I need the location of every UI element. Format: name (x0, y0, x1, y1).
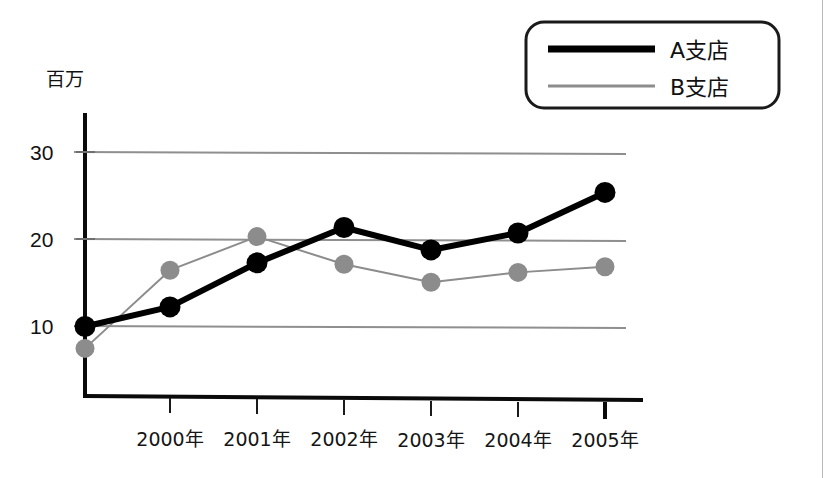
legend[interactable]: A支店 B支店 (526, 22, 779, 108)
data-point-marker (508, 223, 529, 244)
data-point-marker (335, 255, 354, 274)
data-point-marker (596, 257, 615, 276)
line-chart: 百万 30 20 10 2000年 2001年 2002年 2003年 2004… (0, 0, 823, 478)
x-tick-label-2003: 2003年 (397, 429, 464, 451)
x-tick-label-2000: 2000年 (136, 428, 203, 450)
data-point-marker (334, 217, 355, 238)
legend-box (526, 22, 779, 108)
data-point-marker (421, 239, 442, 260)
y-tick-label-10: 10 (30, 315, 53, 338)
data-point-marker (76, 339, 95, 358)
y-axis-unit-label: 百万 (46, 68, 84, 90)
legend-label-series-a: A支店 (670, 38, 729, 63)
y-tick-label-30: 30 (30, 141, 53, 164)
x-tick-label-2001: 2001年 (223, 428, 290, 450)
data-point-marker (509, 263, 528, 282)
chart-page: 百万 30 20 10 2000年 2001年 2002年 2003年 2004… (0, 0, 823, 478)
data-point-marker (247, 252, 268, 273)
x-tick-label-2002: 2002年 (310, 428, 377, 450)
x-tick-label-2005: 2005年 (571, 429, 638, 451)
data-point-marker (422, 273, 441, 292)
legend-label-series-b: B支店 (670, 75, 729, 100)
y-tick-label-20: 20 (30, 228, 53, 251)
data-point-marker (161, 261, 180, 280)
data-point-marker (160, 296, 181, 317)
data-point-marker (75, 316, 96, 337)
data-point-marker (595, 182, 616, 203)
data-point-marker (248, 227, 267, 246)
x-tick-label-2004: 2004年 (484, 429, 551, 451)
